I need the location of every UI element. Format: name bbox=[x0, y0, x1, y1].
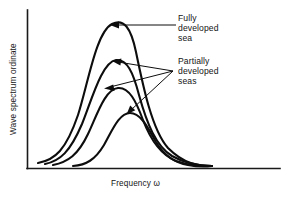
annotation-fully-line-1: Fully bbox=[178, 13, 197, 23]
y-axis-label: Wave spectrum ordinate bbox=[9, 43, 18, 135]
curve-fully-developed-sea bbox=[38, 22, 212, 166]
spectrum-curves-group bbox=[38, 22, 212, 166]
leader-line-partially-1 bbox=[118, 62, 173, 71]
wave-spectrum-figure: Wave spectrum ordinate Frequency ω Fully… bbox=[0, 0, 288, 197]
annotation-partially-line-2: developed bbox=[178, 66, 219, 76]
annotation-label-partially-developed: Partially developed seas bbox=[178, 56, 219, 86]
annotation-fully-line-3: sea bbox=[178, 33, 192, 43]
arrow-head-partially-2 bbox=[104, 84, 115, 91]
annotation-partially-line-1: Partially bbox=[178, 56, 210, 66]
annotation-label-fully-developed: Fully developed sea bbox=[178, 13, 219, 43]
annotation-fully-line-2: developed bbox=[178, 23, 219, 33]
annotation-partially-line-3: seas bbox=[178, 76, 197, 86]
curve-partially-developed-sea-2 bbox=[53, 88, 212, 166]
x-axis-label: Frequency ω bbox=[111, 179, 160, 188]
